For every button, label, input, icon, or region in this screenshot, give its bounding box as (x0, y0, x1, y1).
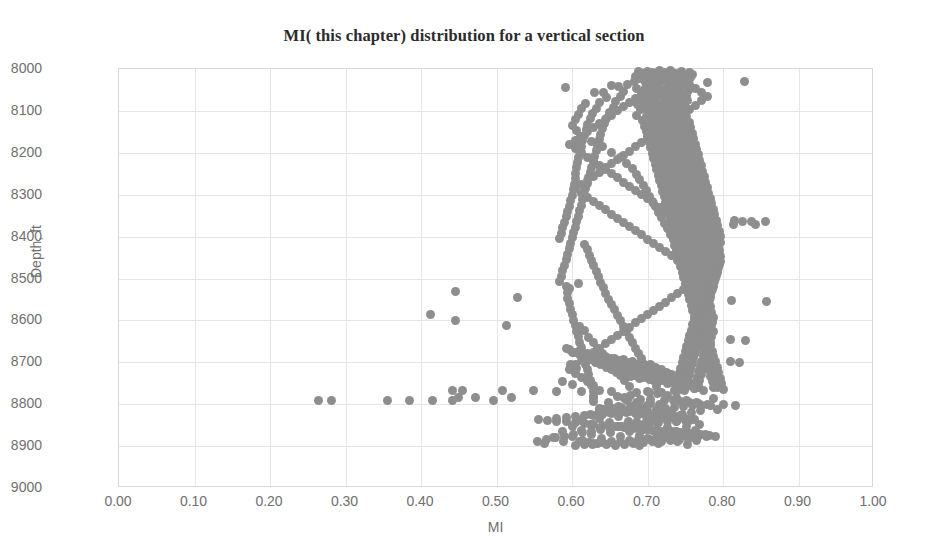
data-point (428, 396, 437, 405)
x-axis-title: MI (118, 519, 873, 535)
data-point (719, 385, 728, 394)
data-point (692, 398, 701, 407)
data-point (405, 396, 414, 405)
data-point (654, 439, 663, 448)
data-point (568, 380, 577, 389)
data-point (540, 439, 549, 448)
x-tick-label: 0.90 (758, 493, 838, 509)
x-tick-label: 0.00 (78, 493, 158, 509)
data-point (662, 413, 671, 422)
data-point (448, 396, 457, 405)
data-point (635, 441, 644, 450)
data-point (735, 358, 744, 367)
y-tick-label: 8300 (0, 186, 42, 202)
x-tick-label: 0.40 (380, 493, 460, 509)
data-point (682, 422, 691, 431)
data-point (645, 375, 654, 384)
data-point (633, 411, 642, 420)
y-tick-label: 8500 (0, 270, 42, 286)
data-point (568, 432, 577, 441)
data-point (578, 436, 587, 445)
data-point (577, 387, 586, 396)
data-point (727, 296, 736, 305)
data-point (543, 416, 552, 425)
data-point (761, 217, 770, 226)
data-point (699, 386, 708, 395)
data-point (562, 413, 571, 422)
x-tick-label: 0.70 (607, 493, 687, 509)
x-tick-label: 0.50 (456, 493, 536, 509)
data-point (587, 430, 596, 439)
data-point (663, 423, 672, 432)
data-point (426, 310, 435, 319)
data-point (561, 83, 570, 92)
y-tick-label: 8100 (0, 102, 42, 118)
data-point (703, 78, 712, 87)
data-point (595, 404, 604, 413)
y-tick-label: 8600 (0, 311, 42, 327)
y-tick-label: 8900 (0, 437, 42, 453)
data-point (654, 377, 663, 386)
data-point (682, 396, 691, 405)
data-point (643, 415, 652, 424)
data-point (451, 287, 460, 296)
plot-area (118, 68, 873, 487)
data-point (451, 316, 460, 325)
data-point (740, 77, 749, 86)
data-point (663, 379, 672, 388)
data-point (635, 431, 644, 440)
data-point (645, 435, 654, 444)
data-point (489, 396, 498, 405)
x-tick-label: 0.20 (229, 493, 309, 509)
data-point (607, 438, 616, 447)
data-point (568, 422, 577, 431)
data-point (507, 393, 516, 402)
data-point (588, 440, 597, 449)
data-point (632, 401, 641, 410)
data-point (644, 425, 653, 434)
data-point (701, 430, 710, 439)
data-point (726, 335, 735, 344)
x-tick-label: 0.60 (531, 493, 611, 509)
scatter-points (119, 69, 872, 486)
x-tick-label: 0.30 (305, 493, 385, 509)
data-point (383, 396, 392, 405)
data-point (597, 434, 606, 443)
data-point (654, 429, 663, 438)
data-point (692, 436, 701, 445)
data-point (751, 220, 760, 229)
data-point (498, 386, 507, 395)
data-point (625, 427, 634, 436)
data-point (314, 396, 323, 405)
data-point (762, 297, 771, 306)
data-point (604, 398, 613, 407)
data-point (690, 384, 699, 393)
data-point (613, 392, 622, 401)
data-point (672, 417, 681, 426)
data-point (623, 396, 632, 405)
data-point (691, 426, 700, 435)
data-point (555, 234, 564, 243)
data-point (653, 389, 662, 398)
data-point (673, 437, 682, 446)
data-point (634, 421, 643, 430)
chart-page: MI( this chapter) distribution for a ver… (0, 0, 928, 560)
data-point (683, 440, 692, 449)
data-point (605, 408, 614, 417)
y-tick-label: 8200 (0, 144, 42, 160)
data-point (471, 393, 480, 402)
data-point (586, 410, 595, 419)
data-point (652, 409, 661, 418)
data-point (726, 357, 735, 366)
chart-title: MI( this chapter) distribution for a ver… (0, 26, 928, 46)
data-point (663, 391, 672, 400)
data-point (552, 387, 561, 396)
y-tick-label: 9000 (0, 479, 42, 495)
data-point (606, 428, 615, 437)
y-tick-label: 8000 (0, 60, 42, 76)
data-point (614, 412, 623, 421)
data-point (327, 396, 336, 405)
data-point (559, 437, 568, 446)
data-point (574, 279, 583, 288)
data-point (513, 293, 522, 302)
